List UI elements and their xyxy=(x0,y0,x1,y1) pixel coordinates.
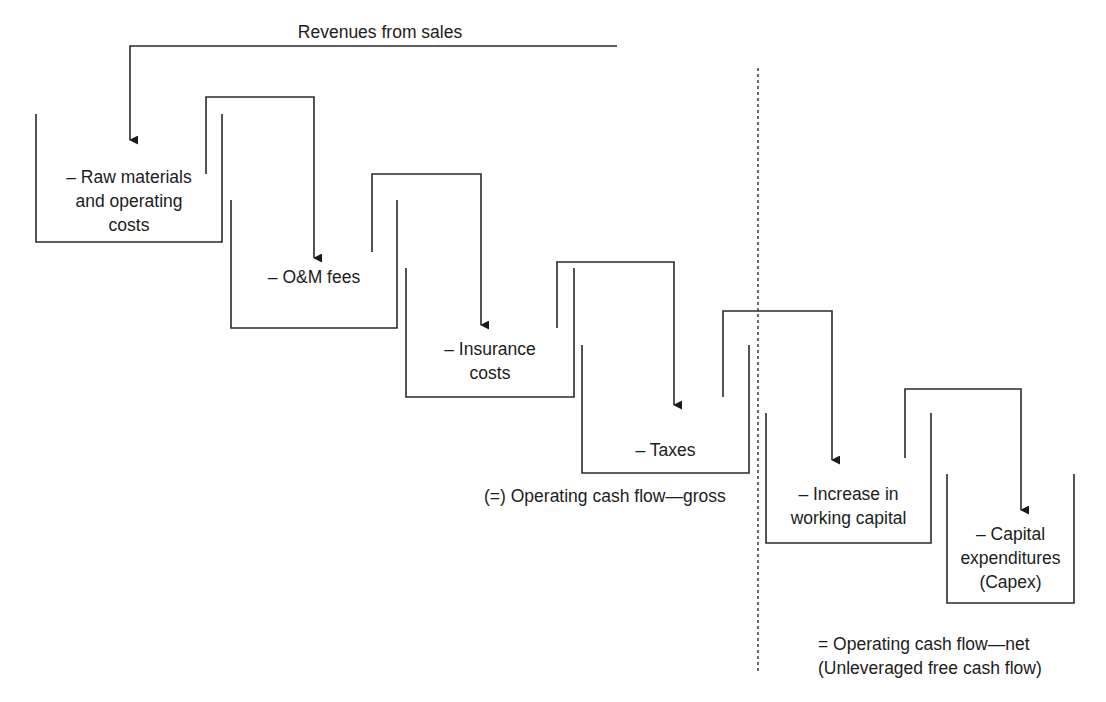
revenue-flow-line xyxy=(130,46,617,140)
operating-cash-flow-net-label: = Operating cash flow—net (Unleveraged f… xyxy=(818,632,1042,680)
bucket-label-om-fees: – O&M fees xyxy=(231,265,397,289)
bucket-label-taxes: – Taxes xyxy=(582,438,749,462)
operating-cash-flow-gross-label: (=) Operating cash flow—gross xyxy=(484,484,726,508)
connector-arrow-2 xyxy=(372,174,481,325)
bucket-label-working-capital: – Increase in working capital xyxy=(766,482,931,530)
bucket-label-insurance: – Insurance costs xyxy=(406,337,574,385)
bucket-label-capex: – Capital expenditures (Capex) xyxy=(947,522,1074,594)
revenue-arrow xyxy=(130,46,617,140)
bucket-label-raw-materials: – Raw materials and operating costs xyxy=(36,165,222,237)
revenues-from-sales-label: Revenues from sales xyxy=(250,20,510,44)
